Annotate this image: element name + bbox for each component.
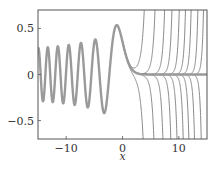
diverging-curve-up bbox=[123, 0, 193, 75]
y-tick-label: 0 bbox=[27, 69, 34, 82]
diverging-curve-down bbox=[123, 42, 172, 169]
y-ticks: −0.500.5 bbox=[7, 22, 41, 127]
diverging-curve-down bbox=[123, 42, 203, 169]
x-tick-label: 10 bbox=[172, 142, 186, 155]
x-axis-label: x bbox=[119, 150, 126, 163]
y-tick-label: −0.5 bbox=[7, 115, 34, 128]
x-tick-label: −10 bbox=[55, 142, 78, 155]
y-tick-label: 0.5 bbox=[17, 22, 35, 35]
chart: −10010 −0.500.5 x bbox=[0, 0, 215, 169]
diverging-curve-up bbox=[123, 0, 187, 75]
diverging-curve-up bbox=[123, 0, 173, 74]
